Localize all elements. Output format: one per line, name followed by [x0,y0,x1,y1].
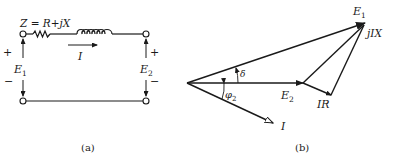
terminal-bottom-left [20,98,26,104]
figure-canvas: Z = R+jX I + E1 − + E2 − (a) [0,0,397,159]
i-phasor-label: I [280,120,286,133]
e1-phasor-label-name: E [352,5,361,18]
impedance-label: Z = R+jX [19,17,71,29]
inductor-icon [77,30,112,35]
delta-label: δ [240,69,245,79]
delta-angle-arc-icon [236,68,238,83]
e2-label-name: E [139,63,148,76]
e1-minus-sign: − [4,75,13,88]
e1-label: E1 [13,63,27,78]
caption-b-text: (b) [295,142,309,153]
e1-phasor-label-subscript: 1 [361,11,366,20]
phi2-label-subscript: 2 [232,95,236,103]
circuit-diagram: Z = R+jX I + E1 − + E2 − (a) [3,17,159,153]
current-label: I [77,50,83,63]
e1-label-subscript: 1 [22,69,27,78]
phi2-label-name: φ [225,89,232,100]
resistor-icon [33,31,50,37]
e2-minus-sign: − [150,75,159,88]
ir-label: IR [316,98,330,111]
e2-phasor-label-subscript: 2 [289,95,294,104]
terminal-top-left [20,31,26,37]
phasor-diagram: E1 jIX E2 IR I δ φ2 (b) [187,5,382,153]
phi2-angle-arc-icon [222,83,224,99]
e2-phasor-label-name: E [280,89,289,102]
caption-b: (b) [295,142,309,153]
caption-a: (a) [81,142,95,153]
e1-plus-sign: + [3,46,12,59]
caption-a-text: (a) [81,142,95,153]
phasor-ir [303,83,331,95]
terminal-bottom-right [143,98,149,104]
jix-label: jIX [365,27,382,39]
phasor-e1 [187,23,365,83]
e1-phasor-label: E1 [352,5,366,20]
terminal-top-right [143,31,149,37]
e2-phasor-label: E2 [280,89,294,104]
e1-label-name: E [13,63,22,76]
e2-plus-sign: + [150,46,159,59]
phasor-jix [331,25,364,95]
